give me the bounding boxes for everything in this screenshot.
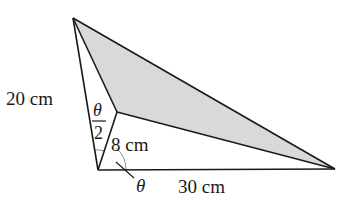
label-20cm: 20 cm	[6, 88, 53, 109]
label-30cm: 30 cm	[178, 176, 225, 197]
triangle-diagram: 20 cm 8 cm 30 cm θ 2 θ	[0, 0, 359, 205]
label-8cm: 8 cm	[111, 134, 149, 155]
label-half-theta-denominator: 2	[94, 123, 103, 143]
label-theta: θ	[136, 175, 145, 196]
label-half-theta-numerator: θ	[93, 100, 102, 120]
side-30cm	[98, 169, 335, 170]
